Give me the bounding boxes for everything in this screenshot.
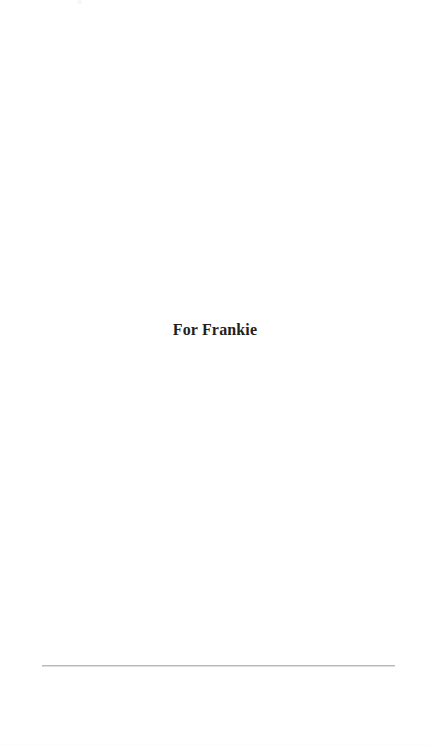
dedication-text: For Frankie (173, 320, 257, 340)
dedication-block: For Frankie (0, 320, 430, 340)
document-page: For Frankie (0, 0, 430, 745)
bottom-horizontal-rule-shadow (42, 666, 395, 667)
scan-artifact-speck (77, 0, 82, 4)
